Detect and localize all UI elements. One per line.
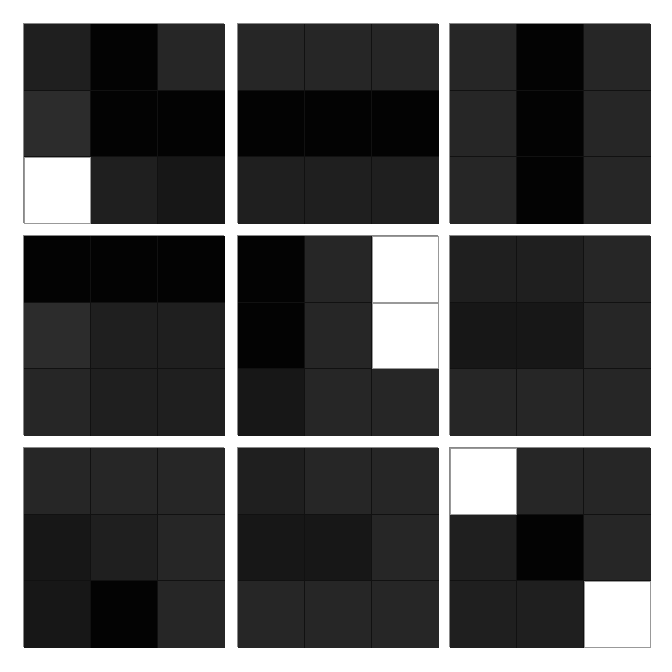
panel-9-cell-8 (517, 581, 584, 648)
panel-7-cell-1 (24, 448, 91, 515)
panel-1-cell-6 (158, 91, 225, 157)
panel-5-cell-9 (372, 369, 439, 436)
panel-7-cell-9 (158, 581, 225, 648)
panel-6-cell-1 (450, 236, 517, 303)
panel-6-cell-6 (584, 303, 651, 369)
panel-3-cell-8 (517, 157, 584, 224)
panel-5-cell-7 (238, 369, 305, 436)
panel-5-cell-4 (238, 303, 305, 369)
panel-5 (237, 235, 438, 435)
panel-6-cell-2 (517, 236, 584, 303)
panel-6-cell-3 (584, 236, 651, 303)
panel-9-cell-1 (450, 448, 517, 515)
panel-6-cell-4 (450, 303, 517, 369)
panel-8-cell-7 (238, 581, 305, 648)
panel-9-cell-3 (584, 448, 651, 515)
panel-9-cell-9 (584, 581, 651, 648)
panel-4-cell-7 (24, 369, 91, 436)
panel-3-cell-1 (450, 24, 517, 91)
panel-4-cell-1 (24, 236, 91, 303)
panel-3-cell-6 (584, 91, 651, 157)
panel-8-cell-9 (372, 581, 439, 648)
panel-7-cell-4 (24, 515, 91, 581)
panel-4-cell-2 (91, 236, 158, 303)
panel-3-cell-4 (450, 91, 517, 157)
panel-9-cell-6 (584, 515, 651, 581)
panel-9-cell-4 (450, 515, 517, 581)
panel-7-cell-6 (158, 515, 225, 581)
panel-6 (449, 235, 650, 435)
panel-7-cell-2 (91, 448, 158, 515)
panel-5-cell-8 (305, 369, 372, 436)
panel-1-cell-5 (91, 91, 158, 157)
panel-2-cell-4 (238, 91, 305, 157)
panel-9-cell-2 (517, 448, 584, 515)
panel-1-cell-2 (91, 24, 158, 91)
panel-6-cell-8 (517, 369, 584, 436)
panel-3 (449, 23, 650, 223)
panel-8-cell-1 (238, 448, 305, 515)
panel-5-cell-5 (305, 303, 372, 369)
panel-1 (23, 23, 224, 223)
panel-5-cell-6 (372, 303, 439, 369)
panel-5-cell-1 (238, 236, 305, 303)
panel-2-cell-2 (305, 24, 372, 91)
panel-6-cell-5 (517, 303, 584, 369)
panel-7-cell-5 (91, 515, 158, 581)
panel-7 (23, 447, 224, 647)
panel-9 (449, 447, 650, 647)
panel-4-cell-5 (91, 303, 158, 369)
panel-7-cell-8 (91, 581, 158, 648)
panel-1-cell-3 (158, 24, 225, 91)
panel-5-cell-3 (372, 236, 439, 303)
panel-1-cell-1 (24, 24, 91, 91)
panel-7-cell-3 (158, 448, 225, 515)
panel-6-cell-7 (450, 369, 517, 436)
panel-1-cell-7 (24, 157, 91, 224)
panel-2-cell-1 (238, 24, 305, 91)
panel-1-cell-4 (24, 91, 91, 157)
panel-2-cell-9 (372, 157, 439, 224)
panel-9-cell-7 (450, 581, 517, 648)
panel-2-cell-5 (305, 91, 372, 157)
panel-2 (237, 23, 438, 223)
panel-2-cell-7 (238, 157, 305, 224)
panel-4-cell-4 (24, 303, 91, 369)
panel-8-cell-2 (305, 448, 372, 515)
panel-3-cell-5 (517, 91, 584, 157)
panel-8 (237, 447, 438, 647)
panel-8-cell-6 (372, 515, 439, 581)
panel-8-cell-4 (238, 515, 305, 581)
panel-1-cell-8 (91, 157, 158, 224)
panel-4-cell-9 (158, 369, 225, 436)
panel-8-cell-5 (305, 515, 372, 581)
panel-4-cell-6 (158, 303, 225, 369)
panel-8-cell-3 (372, 448, 439, 515)
panel-4 (23, 235, 224, 435)
panel-2-cell-3 (372, 24, 439, 91)
panel-3-cell-9 (584, 157, 651, 224)
panel-3-cell-3 (584, 24, 651, 91)
panel-4-cell-8 (91, 369, 158, 436)
panel-9-cell-5 (517, 515, 584, 581)
panel-1-cell-9 (158, 157, 225, 224)
panel-3-cell-7 (450, 157, 517, 224)
panel-4-cell-3 (158, 236, 225, 303)
panel-7-cell-7 (24, 581, 91, 648)
panel-2-cell-8 (305, 157, 372, 224)
panel-8-cell-8 (305, 581, 372, 648)
panel-2-cell-6 (372, 91, 439, 157)
panel-5-cell-2 (305, 236, 372, 303)
panel-6-cell-9 (584, 369, 651, 436)
panel-3-cell-2 (517, 24, 584, 91)
